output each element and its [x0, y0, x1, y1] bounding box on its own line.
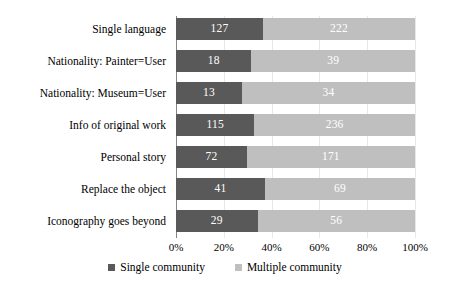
category-label-text: Replace the object: [81, 183, 166, 195]
xtick-label-2: 40%: [252, 241, 292, 253]
bar-value-label: 127: [211, 23, 229, 35]
bar-segment-multiple[interactable]: 56: [258, 210, 415, 232]
xtick-text: 0%: [169, 241, 184, 253]
xtick-text: 100%: [402, 241, 428, 253]
stacked-bar-chart: Single language Nationality: Painter=Use…: [0, 0, 450, 289]
xtick-label-4: 80%: [347, 241, 387, 253]
xtick-label-1: 20%: [204, 241, 244, 253]
bar-value-label: 13: [203, 87, 215, 99]
legend-swatch-icon: [108, 264, 115, 271]
bar-value-label: 222: [330, 23, 348, 35]
bar-value-label: 41: [215, 183, 227, 195]
bar-value-label: 115: [206, 119, 223, 131]
bar-value-label: 29: [211, 215, 223, 227]
bar-segment-multiple[interactable]: 34: [242, 82, 415, 104]
bar-segment-single[interactable]: 18: [176, 50, 251, 72]
bar-segment-multiple[interactable]: 222: [263, 18, 415, 40]
bar-segment-multiple[interactable]: 171: [247, 146, 415, 168]
bar-segment-single[interactable]: 29: [176, 210, 258, 232]
bar-value-label: 39: [327, 55, 339, 67]
bar-row: 115 236: [176, 114, 415, 136]
bar-value-label: 34: [323, 87, 335, 99]
bar-value-label: 72: [205, 151, 217, 163]
bar-row: 29 56: [176, 210, 415, 232]
xtick-label-3: 60%: [299, 241, 339, 253]
bar-value-label: 171: [322, 151, 340, 163]
bar-row: 41 69: [176, 178, 415, 200]
bar-segment-single[interactable]: 72: [176, 146, 247, 168]
xtick-text: 80%: [357, 241, 377, 253]
xtick-text: 60%: [309, 241, 329, 253]
bar-segment-single[interactable]: 13: [176, 82, 242, 104]
xtick-text: 40%: [262, 241, 282, 253]
legend-item-single-community[interactable]: Single community: [108, 261, 205, 273]
category-label-text: Single language: [92, 23, 166, 35]
category-label-1: Nationality: Painter=User: [0, 50, 170, 72]
category-label-text: Info of original work: [69, 119, 166, 131]
bar-value-label: 18: [208, 55, 220, 67]
chart-legend: Single community Multiple community: [0, 261, 450, 273]
xtick-label-0: 0%: [156, 241, 196, 253]
bar-value-label: 56: [330, 215, 342, 227]
bar-segment-single[interactable]: 127: [176, 18, 263, 40]
legend-swatch-icon: [235, 264, 242, 271]
bar-row: 13 34: [176, 82, 415, 104]
category-label-text: Iconography goes beyond: [47, 215, 166, 227]
category-label-5: Replace the object: [0, 178, 170, 200]
plot-area: 127 222 18 39 13 34 115: [176, 16, 415, 238]
bar-row: 127 222: [176, 18, 415, 40]
xtick-text: 20%: [214, 241, 234, 253]
bar-segment-single[interactable]: 115: [176, 114, 254, 136]
legend-item-multiple-community[interactable]: Multiple community: [235, 261, 342, 273]
bar-segment-single[interactable]: 41: [176, 178, 265, 200]
bar-segment-multiple[interactable]: 39: [251, 50, 415, 72]
legend-label: Single community: [120, 261, 205, 273]
gridline-100: [415, 16, 416, 238]
category-label-3: Info of original work: [0, 114, 170, 136]
category-label-text: Nationality: Museum=User: [40, 87, 166, 99]
category-label-6: Iconography goes beyond: [0, 210, 170, 232]
legend-label: Multiple community: [247, 261, 342, 273]
category-label-2: Nationality: Museum=User: [0, 82, 170, 104]
bar-value-label: 236: [326, 119, 344, 131]
category-label-4: Personal story: [0, 146, 170, 168]
bar-segment-multiple[interactable]: 236: [254, 114, 415, 136]
xtick-label-5: 100%: [395, 241, 435, 253]
bar-segment-multiple[interactable]: 69: [265, 178, 415, 200]
bar-row: 18 39: [176, 50, 415, 72]
bar-row: 72 171: [176, 146, 415, 168]
category-label-text: Personal story: [101, 151, 166, 163]
category-label-text: Nationality: Painter=User: [47, 55, 166, 67]
bar-value-label: 69: [334, 183, 346, 195]
category-label-0: Single language: [0, 18, 170, 40]
